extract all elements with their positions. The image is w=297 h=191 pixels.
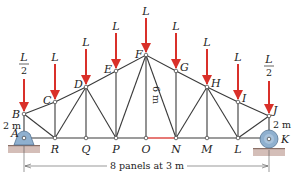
joint-label-F: F bbox=[134, 48, 143, 61]
truss-diagram: L 2 L L L L L L L L 2 A B C D E F G H I … bbox=[0, 0, 297, 191]
joint-label-J: J bbox=[271, 104, 278, 117]
dim-span: 8 panels at 3 m bbox=[110, 160, 184, 171]
dim-center-height: 6 m bbox=[151, 86, 162, 104]
joint-label-P: P bbox=[111, 143, 120, 156]
joint-label-H: H bbox=[210, 77, 221, 90]
load-label-J-den: 2 bbox=[266, 67, 272, 78]
load-label-H: L bbox=[202, 36, 210, 49]
member-DP bbox=[86, 87, 116, 138]
load-label-D: L bbox=[81, 36, 89, 49]
joint-label-I: I bbox=[241, 92, 247, 105]
member-FP bbox=[116, 55, 146, 138]
dim-right-height: 2 m bbox=[273, 119, 291, 130]
load-label-F: L bbox=[141, 5, 149, 18]
joint-label-R: R bbox=[50, 143, 59, 156]
load-label-J-num: L bbox=[264, 53, 272, 66]
dim-left-height: 2 m bbox=[3, 120, 21, 131]
load-label-E: L bbox=[111, 20, 119, 33]
joint-label-N: N bbox=[170, 143, 181, 156]
truss-members bbox=[24, 55, 269, 138]
joint-labels: A B C D E F G H I J K R Q P O N M L bbox=[10, 48, 290, 156]
load-label-I: L bbox=[233, 51, 241, 64]
joint-label-E: E bbox=[103, 63, 112, 76]
joint-label-G: G bbox=[180, 61, 189, 74]
load-label-C: L bbox=[50, 51, 58, 64]
joint-label-K: K bbox=[280, 133, 290, 146]
joint-label-M: M bbox=[200, 143, 213, 156]
joint-label-Q: Q bbox=[81, 143, 90, 156]
member-HN bbox=[176, 87, 207, 138]
joint-label-O: O bbox=[141, 143, 150, 156]
load-label-B-num: L bbox=[19, 51, 27, 64]
load-label-G: L bbox=[171, 20, 179, 33]
joint-label-C: C bbox=[43, 94, 52, 107]
load-label-B-den: 2 bbox=[21, 65, 27, 76]
joint-label-D: D bbox=[73, 78, 83, 91]
joint-label-L: L bbox=[233, 143, 241, 156]
